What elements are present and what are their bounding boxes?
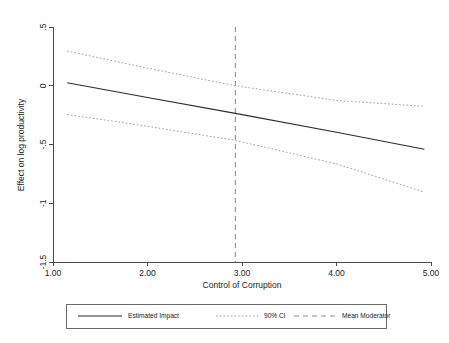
y-axis-title: Effect on log productivity	[16, 98, 26, 191]
y-axis-ticks: .50-.5-1-1.5	[38, 23, 53, 269]
data-series	[67, 51, 424, 192]
legend-label: 90% CI	[264, 312, 286, 319]
y-tick-label: -.5	[38, 139, 48, 149]
x-tick-label: 1.00	[45, 268, 62, 278]
x-tick-label: 3.00	[234, 268, 251, 278]
plot-area	[53, 27, 431, 262]
chart-canvas: .50-.5-1-1.5 1.002.003.004.005.00 Contro…	[0, 0, 449, 343]
y-tick-label: 0	[38, 83, 48, 88]
x-tick-label: 4.00	[328, 268, 345, 278]
chart-figure: .50-.5-1-1.5 1.002.003.004.005.00 Contro…	[0, 0, 449, 343]
y-tick-label: .5	[38, 23, 48, 30]
x-axis-title: Control of Corruption	[203, 280, 282, 290]
series-90-ci-upper	[67, 51, 424, 106]
legend-label: Estimated Impact	[128, 312, 179, 320]
series-estimated-impact	[67, 83, 424, 149]
series-90-ci-lower	[67, 115, 424, 193]
y-tick-label: -1	[38, 199, 48, 207]
x-axis-ticks: 1.002.003.004.005.00	[45, 262, 440, 278]
legend: Estimated Impact90% CIMean Moderator	[66, 304, 391, 328]
x-tick-label: 5.00	[423, 268, 440, 278]
legend-label: Mean Moderator	[342, 312, 391, 319]
x-tick-label: 2.00	[139, 268, 156, 278]
